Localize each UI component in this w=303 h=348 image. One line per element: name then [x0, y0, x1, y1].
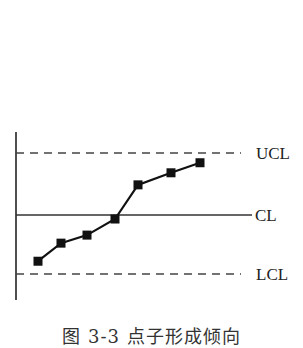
square-marker-icon: [57, 239, 66, 248]
square-marker-icon: [134, 180, 143, 189]
figure-caption: 图 3-3 点子形成倾向: [0, 322, 303, 348]
cl-label: CL: [255, 206, 277, 225]
square-marker-icon: [83, 231, 92, 240]
data-series: [34, 158, 205, 265]
square-marker-icon: [196, 158, 205, 167]
square-marker-icon: [167, 168, 176, 177]
lcl-label: LCL: [256, 265, 288, 284]
ucl-label: UCL: [256, 144, 290, 163]
square-marker-icon: [34, 257, 43, 266]
square-marker-icon: [111, 215, 120, 224]
